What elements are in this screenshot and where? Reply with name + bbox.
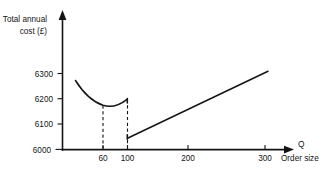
x-tick-label-300: 300 — [258, 154, 272, 163]
x-tick-label-200: 200 — [181, 154, 195, 163]
y-tick-label-6000: 6000 — [33, 146, 52, 155]
x-axis-name-label: Order size — [281, 154, 319, 163]
cost-line-discount-price — [128, 71, 269, 138]
y-tick-label-6200: 6200 — [35, 95, 54, 104]
y-axis-label-line1: Total annual — [3, 15, 47, 24]
x-tick-label-100: 100 — [121, 154, 135, 163]
cost-curve-standard-price — [76, 81, 128, 107]
x-axis-symbol-label: Q — [298, 139, 305, 149]
cost-vs-order-size-chart: Total annual cost (£) 6300 6200 6100 600… — [0, 0, 325, 173]
x-tick-label-60: 60 — [98, 154, 108, 163]
y-tick-label-6100: 6100 — [35, 120, 54, 129]
y-axis — [59, 10, 67, 150]
chart-canvas: Total annual cost (£) 6300 6200 6100 600… — [0, 0, 325, 173]
y-tick-label-6300: 6300 — [35, 70, 54, 79]
y-axis-ticks — [56, 74, 63, 150]
y-axis-label-line2: cost (£) — [20, 27, 48, 36]
y-axis-arrow-icon — [59, 10, 67, 20]
x-axis — [63, 146, 295, 154]
x-axis-arrow-icon — [284, 146, 294, 154]
